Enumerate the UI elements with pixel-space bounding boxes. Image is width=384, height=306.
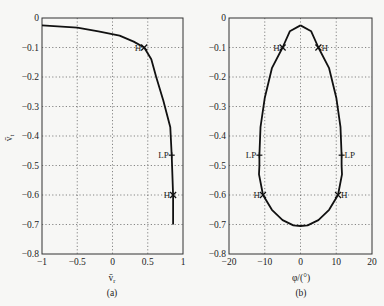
y-tick-label: −0.7 bbox=[22, 220, 39, 230]
y-tick-label: −0.5 bbox=[22, 161, 39, 171]
y-tick-label: 0 bbox=[221, 13, 226, 23]
x-tick-label: 1 bbox=[181, 257, 186, 267]
point-annotation-label: LP bbox=[246, 150, 257, 160]
y-tick-label: −0.8 bbox=[209, 249, 226, 259]
y-tick-label: −0.1 bbox=[22, 43, 39, 53]
panel-a-xlabel: v̄r bbox=[109, 273, 117, 284]
y-tick-label: −0.7 bbox=[209, 220, 226, 230]
y-tick-label: −0.1 bbox=[209, 43, 226, 53]
x-tick-label: 20 bbox=[367, 257, 377, 267]
point-annotation-label: H bbox=[273, 43, 280, 53]
hopf-marker-icon bbox=[141, 45, 147, 51]
point-annotation-label: H bbox=[164, 190, 171, 200]
data-curve bbox=[42, 25, 173, 224]
y-tick-label: −0.6 bbox=[209, 190, 226, 200]
panel-b-caption: (b) bbox=[295, 288, 306, 299]
point-annotation-label: H bbox=[321, 43, 328, 53]
x-tick-label: 0.5 bbox=[142, 257, 154, 267]
panel-b-plot: −20−10010200−0.1−0.2−0.3−0.4−0.5−0.6−0.7… bbox=[209, 13, 377, 267]
y-tick-label: 0 bbox=[34, 13, 39, 23]
panel-a-ylabel: v̄t bbox=[4, 135, 15, 142]
y-tick-label: −0.4 bbox=[209, 131, 226, 141]
panel-a-plot: −1−0.500.510−0.1−0.2−0.3−0.4−0.5−0.6−0.7… bbox=[22, 13, 186, 267]
x-tick-label: 10 bbox=[332, 257, 342, 267]
y-tick-label: −0.8 bbox=[22, 249, 39, 259]
figure: −1−0.500.510−0.1−0.2−0.3−0.4−0.5−0.6−0.7… bbox=[0, 0, 384, 306]
y-tick-label: −0.4 bbox=[22, 131, 39, 141]
y-tick-label: −0.3 bbox=[209, 102, 226, 112]
point-annotation-label: H bbox=[135, 43, 142, 53]
point-annotation-label: H bbox=[341, 190, 348, 200]
y-tick-label: −0.5 bbox=[209, 161, 226, 171]
x-tick-label: −10 bbox=[257, 257, 272, 267]
point-annotation-label: H bbox=[253, 190, 260, 200]
point-annotation-label: LP bbox=[158, 150, 169, 160]
point-annotation-label: LP bbox=[345, 150, 356, 160]
limit-point-marker-icon bbox=[169, 152, 175, 158]
limit-point-marker-icon bbox=[256, 152, 262, 158]
y-tick-label: −0.2 bbox=[209, 72, 226, 82]
panel-a-caption: (a) bbox=[107, 288, 118, 299]
panel-b-xlabel: φ/(°) bbox=[292, 273, 310, 284]
y-tick-label: −0.3 bbox=[22, 102, 39, 112]
y-tick-label: −0.2 bbox=[22, 72, 39, 82]
x-tick-label: −0.5 bbox=[69, 257, 86, 267]
x-tick-label: 0 bbox=[298, 257, 303, 267]
y-tick-label: −0.6 bbox=[22, 190, 39, 200]
x-tick-label: 0 bbox=[110, 257, 115, 267]
